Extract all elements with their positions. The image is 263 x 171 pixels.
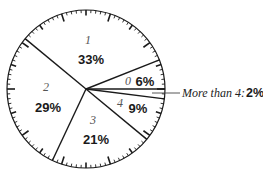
tick-mark: [8, 103, 11, 104]
callout-category-label: More than 4:: [181, 86, 245, 100]
tick-mark: [8, 74, 11, 75]
tick-mark: [71, 164, 72, 167]
tick-mark: [100, 164, 101, 167]
pie-chart: 1 33% 2 29% 3 21% 0 6% 4 9% More than 4:…: [0, 0, 263, 171]
slice-1-category-label: 1: [85, 33, 91, 47]
slice-4-category-label: 4: [117, 96, 123, 110]
slice-4-percent-label: 9%: [129, 101, 148, 116]
slice-2-category-label: 2: [43, 80, 49, 94]
slice-1-percent-label: 33%: [78, 52, 104, 67]
tick-mark: [161, 74, 164, 75]
tick-mark: [100, 11, 101, 14]
tick-mark: [161, 103, 164, 104]
callout-percent-label: 2%: [246, 86, 263, 100]
slice-2-percent-label: 29%: [35, 100, 61, 115]
slice-0-percent-label: 6%: [136, 74, 155, 89]
slice-3-category-label: 3: [89, 113, 96, 127]
slice-3-percent-label: 21%: [83, 132, 109, 147]
slice-0-category-label: 0: [125, 74, 131, 88]
tick-mark: [71, 11, 72, 14]
